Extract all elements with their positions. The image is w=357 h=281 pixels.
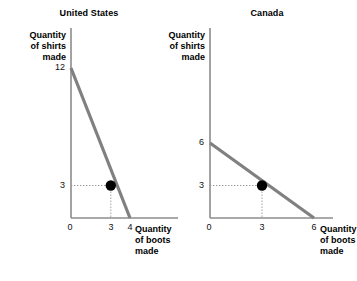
y-tick-label-12-us: 12 bbox=[47, 62, 65, 72]
ppf-figure: United States Quantity of shirts made Qu… bbox=[0, 0, 357, 281]
x-tick-label-0-us: 0 bbox=[64, 222, 76, 232]
chart-panel-canada: Canada Quantity of shirts made Quantity … bbox=[178, 0, 356, 281]
y-axis-label-line-1: Quantity bbox=[147, 30, 205, 41]
y-axis-label-line-2: of shirts bbox=[147, 41, 205, 52]
x-tick-label-0-ca: 0 bbox=[203, 222, 215, 232]
y-axis-label-line-1: Quantity bbox=[8, 30, 66, 41]
x-axis-label-line-1: Quantity bbox=[320, 224, 357, 235]
x-axis-label-line-3: made bbox=[320, 246, 357, 257]
production-point-us bbox=[106, 180, 116, 190]
y-axis-label-line-3: made bbox=[147, 52, 205, 63]
x-axis-label-line-2: of boots bbox=[320, 235, 357, 246]
x-tick-label-6-ca: 6 bbox=[308, 222, 320, 232]
y-axis-label-us: Quantity of shirts made bbox=[8, 30, 66, 63]
production-point-ca bbox=[257, 180, 267, 190]
x-tick-label-3-us: 3 bbox=[105, 222, 117, 232]
y-tick-label-3-ca: 3 bbox=[186, 180, 204, 190]
y-tick-label-3-us: 3 bbox=[47, 180, 65, 190]
y-tick-label-6-ca: 6 bbox=[186, 137, 204, 147]
x-tick-label-3-ca: 3 bbox=[256, 222, 268, 232]
ppf-line-us bbox=[71, 68, 130, 218]
x-axis-label-ca: Quantity of boots made bbox=[320, 224, 357, 257]
y-axis-label-ca: Quantity of shirts made bbox=[147, 30, 205, 63]
y-axis-label-line-2: of shirts bbox=[8, 41, 66, 52]
x-tick-label-4-us: 4 bbox=[124, 222, 136, 232]
